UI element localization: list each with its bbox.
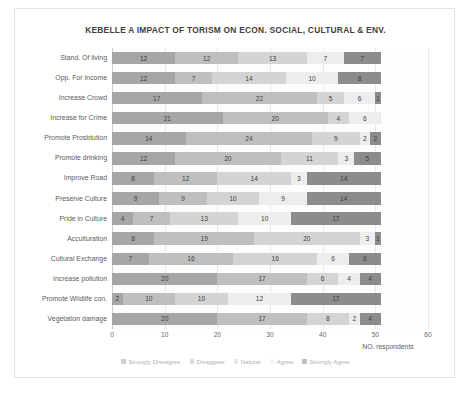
bar-segment: 14 <box>217 172 291 184</box>
x-tick-label: 10 <box>161 331 168 338</box>
gridline <box>375 48 376 329</box>
legend-item[interactable]: Strongly Dissagree <box>121 358 180 365</box>
bar-segment: 2 <box>370 132 381 144</box>
bar-value-label: 20 <box>224 155 231 162</box>
bar-segment: 20 <box>112 273 217 285</box>
legend-item[interactable]: Agree <box>270 358 294 365</box>
bar-segment: 6 <box>349 112 381 124</box>
bar-value-label: 9 <box>281 195 285 202</box>
legend-item[interactable]: Disaggree <box>190 358 225 365</box>
legend-item[interactable]: Strongly Agree <box>302 358 350 365</box>
bar-segment: 17 <box>291 212 381 224</box>
bar-segment: 3 <box>291 172 307 184</box>
bar-segment: 10 <box>123 293 176 305</box>
bar-segment: 1 <box>375 92 380 104</box>
bar-segment: 4 <box>112 212 133 224</box>
bar-value-label: 9 <box>134 195 138 202</box>
bar-segment: 14 <box>112 132 186 144</box>
bar-segment: 17 <box>217 313 307 325</box>
bar-value-label: 20 <box>161 315 168 322</box>
bar-segment: 20 <box>254 232 359 244</box>
bar-segment: 2 <box>349 313 360 325</box>
x-tick-label: 60 <box>424 331 431 338</box>
gridline <box>270 48 271 329</box>
bar-segment: 16 <box>233 253 317 265</box>
category-label: Pride in Culture <box>60 215 108 222</box>
bar-segment: 3 <box>338 152 354 164</box>
bar-row: 8192031 <box>112 232 428 244</box>
bar-segment: 12 <box>112 72 175 84</box>
bar-segment: 20 <box>175 152 280 164</box>
bar-segment: 14 <box>212 72 286 84</box>
bar-value-label: 4 <box>347 275 351 282</box>
bar-value-label: 3 <box>297 175 301 182</box>
x-axis-ticks: 0102030405060 <box>112 331 428 343</box>
legend-item[interactable]: Natural <box>234 358 261 365</box>
gridline <box>165 48 166 329</box>
bar-segment: 6 <box>349 253 381 265</box>
bar-segment: 20 <box>112 313 217 325</box>
bar-value-label: 6 <box>321 275 325 282</box>
bar-segment: 14 <box>307 172 381 184</box>
bar-value-label: 14 <box>245 75 252 82</box>
category-label: Preserve Culture <box>55 195 107 202</box>
legend-label: Strongly Agree <box>309 358 350 365</box>
chart-card: KEBELLE A IMPACT OF TORISM ON ECON. SOCI… <box>14 8 455 378</box>
bar-segment: 8 <box>112 172 154 184</box>
bar-value-label: 7 <box>192 75 196 82</box>
bar-segment: 19 <box>154 232 254 244</box>
bar-value-label: 1 <box>376 235 380 242</box>
x-tick-label: 0 <box>110 331 114 338</box>
bar-segment: 8 <box>338 72 380 84</box>
bar-value-label: 14 <box>251 175 258 182</box>
legend-label: Strongly Dissagree <box>128 358 180 365</box>
bar-segment: 4 <box>360 313 381 325</box>
bar-segment: 17 <box>217 273 307 285</box>
category-label: Opp. For Income <box>55 74 107 81</box>
bar-value-label: 5 <box>366 155 370 162</box>
bar-value-label: 6 <box>363 115 367 122</box>
bar-segment: 22 <box>202 92 318 104</box>
legend-swatch-icon <box>234 359 239 364</box>
gridline <box>323 48 324 329</box>
bar-value-label: 9 <box>334 135 338 142</box>
bar-segment: 7 <box>133 212 170 224</box>
category-label: Acculturation <box>67 235 107 242</box>
x-tick-label: 50 <box>372 331 379 338</box>
bar-value-label: 19 <box>200 235 207 242</box>
y-axis-line <box>112 48 113 329</box>
bar-value-label: 1 <box>376 95 380 102</box>
legend-swatch-icon <box>270 359 275 364</box>
bar-segment: 1 <box>375 232 380 244</box>
bar-value-label: 20 <box>272 115 279 122</box>
bar-value-label: 8 <box>131 175 135 182</box>
bar-value-label: 12 <box>182 175 189 182</box>
bar-value-label: 4 <box>121 215 125 222</box>
bar-segment: 6 <box>317 253 349 265</box>
bar-segment: 7 <box>307 52 344 64</box>
bar-value-label: 7 <box>323 55 327 62</box>
bar-value-label: 12 <box>140 75 147 82</box>
bar-value-label: 14 <box>145 135 152 142</box>
bar-segment: 4 <box>338 273 359 285</box>
bar-segment: 3 <box>360 232 376 244</box>
bar-value-label: 6 <box>363 255 367 262</box>
bar-value-label: 11 <box>306 155 313 162</box>
category-label: Increase pollution <box>53 275 107 282</box>
bar-segment: 12 <box>175 52 238 64</box>
bar-value-label: 9 <box>181 195 185 202</box>
bar-value-label: 4 <box>368 275 372 282</box>
x-axis-title: NO. respondents <box>328 343 448 350</box>
bar-segment: 24 <box>186 132 312 144</box>
bar-value-label: 8 <box>131 235 135 242</box>
bar-segment: 4 <box>328 112 349 124</box>
bar-row: 12201135 <box>112 152 428 164</box>
bar-value-label: 13 <box>269 55 276 62</box>
bar-value-label: 2 <box>352 315 356 322</box>
bar-segment: 17 <box>112 92 202 104</box>
bar-segment: 5 <box>317 92 343 104</box>
bar-value-label: 4 <box>368 315 372 322</box>
x-tick-label: 20 <box>214 331 221 338</box>
bar-value-label: 2 <box>115 295 119 302</box>
bar-value-label: 8 <box>326 315 330 322</box>
